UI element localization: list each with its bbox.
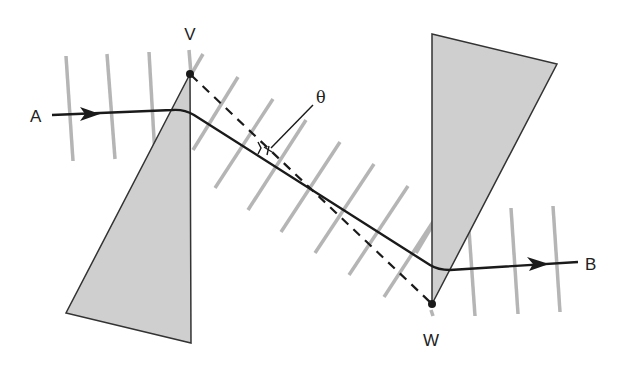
label-a: A — [30, 107, 42, 126]
label-theta: θ — [316, 88, 326, 107]
vertex-v-dot — [186, 70, 194, 78]
prism-ray-diagram: A B V W θ — [0, 0, 630, 368]
label-v: V — [184, 25, 196, 44]
diagram-canvas: A B V W θ — [0, 0, 630, 368]
vertex-w-dot — [428, 300, 436, 308]
label-b: B — [585, 255, 596, 274]
label-w: W — [423, 331, 439, 350]
